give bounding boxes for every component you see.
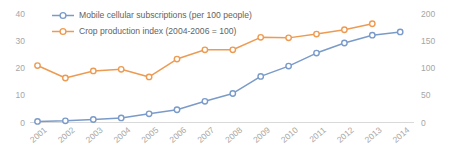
data-point-marker	[314, 50, 319, 55]
data-point-marker	[202, 47, 207, 52]
data-point-marker	[146, 74, 151, 79]
left-axis-tick-labels: 010203040	[16, 9, 26, 128]
data-point-marker	[286, 35, 291, 40]
data-point-marker	[370, 21, 375, 26]
data-point-marker	[119, 67, 124, 72]
x-axis-tick-label: 2002	[56, 125, 77, 145]
x-axis-tick-label: 2014	[391, 125, 412, 145]
line-chart: 010203040 050100150200 20012002200320042…	[0, 0, 455, 167]
left-axis-tick-label: 30	[16, 36, 26, 46]
x-axis-tick-label: 2010	[279, 125, 300, 145]
x-axis-tick-label: 2009	[251, 125, 272, 145]
chart-legend: Mobile cellular subscriptions (per 100 p…	[52, 10, 252, 36]
x-axis-tick-label: 2012	[335, 125, 356, 145]
data-point-marker	[119, 115, 124, 120]
data-point-marker	[314, 31, 319, 36]
left-axis-tick-label: 10	[16, 90, 26, 100]
data-point-marker	[286, 63, 291, 68]
x-axis-tick-label: 2007	[195, 125, 216, 145]
data-point-marker	[91, 68, 96, 73]
right-axis-tick-label: 150	[421, 36, 435, 46]
data-point-marker	[63, 118, 68, 123]
x-axis-tick-label: 2004	[112, 125, 133, 145]
data-point-marker	[342, 27, 347, 32]
data-point-marker	[174, 56, 179, 61]
data-point-marker	[63, 75, 68, 80]
x-axis-tick-label: 2001	[28, 125, 49, 145]
data-point-marker	[258, 35, 263, 40]
x-axis-tick-label: 2008	[223, 125, 244, 145]
legend-marker-icon	[60, 13, 66, 19]
x-axis-tick-labels: 2001200220032004200520062007200820092010…	[28, 125, 412, 145]
x-axis-tick-label: 2003	[84, 125, 105, 145]
left-axis-tick-label: 40	[16, 9, 26, 19]
left-axis-tick-label: 20	[16, 63, 26, 73]
data-point-marker	[146, 111, 151, 116]
data-point-marker	[398, 29, 403, 34]
legend-label: Crop production index (2004-2006 = 100)	[79, 26, 237, 36]
data-point-marker	[91, 117, 96, 122]
data-point-marker	[35, 119, 40, 124]
left-axis-tick-label: 0	[20, 118, 25, 128]
data-point-marker	[230, 91, 235, 96]
data-point-marker	[230, 47, 235, 52]
chart-container: 010203040 050100150200 20012002200320042…	[0, 0, 455, 167]
series-markers	[35, 21, 403, 124]
right-axis-tick-labels: 050100150200	[421, 9, 435, 128]
right-axis-tick-label: 200	[421, 9, 435, 19]
x-axis-tick-label: 2005	[139, 125, 160, 145]
data-point-marker	[370, 32, 375, 37]
data-point-marker	[342, 40, 347, 45]
x-axis-tick-label: 2013	[363, 125, 384, 145]
right-axis-tick-label: 50	[421, 90, 431, 100]
x-axis-tick-label: 2011	[307, 125, 328, 145]
right-axis-tick-label: 0	[421, 118, 426, 128]
x-axis-tick-label: 2006	[167, 125, 188, 145]
legend-marker-icon	[60, 29, 66, 35]
data-point-marker	[174, 107, 179, 112]
right-axis-tick-label: 100	[421, 63, 435, 73]
data-point-marker	[202, 99, 207, 104]
legend-label: Mobile cellular subscriptions (per 100 p…	[79, 10, 252, 20]
data-point-marker	[258, 74, 263, 79]
data-point-marker	[35, 63, 40, 68]
